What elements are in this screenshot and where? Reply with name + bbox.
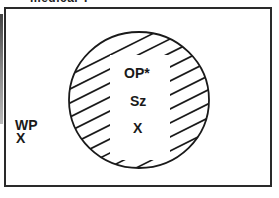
label-x-inside: X: [133, 121, 142, 135]
label-sz: Sz: [130, 94, 146, 108]
label-x-outside: X: [16, 131, 25, 145]
label-op-star: OP*: [124, 66, 150, 80]
